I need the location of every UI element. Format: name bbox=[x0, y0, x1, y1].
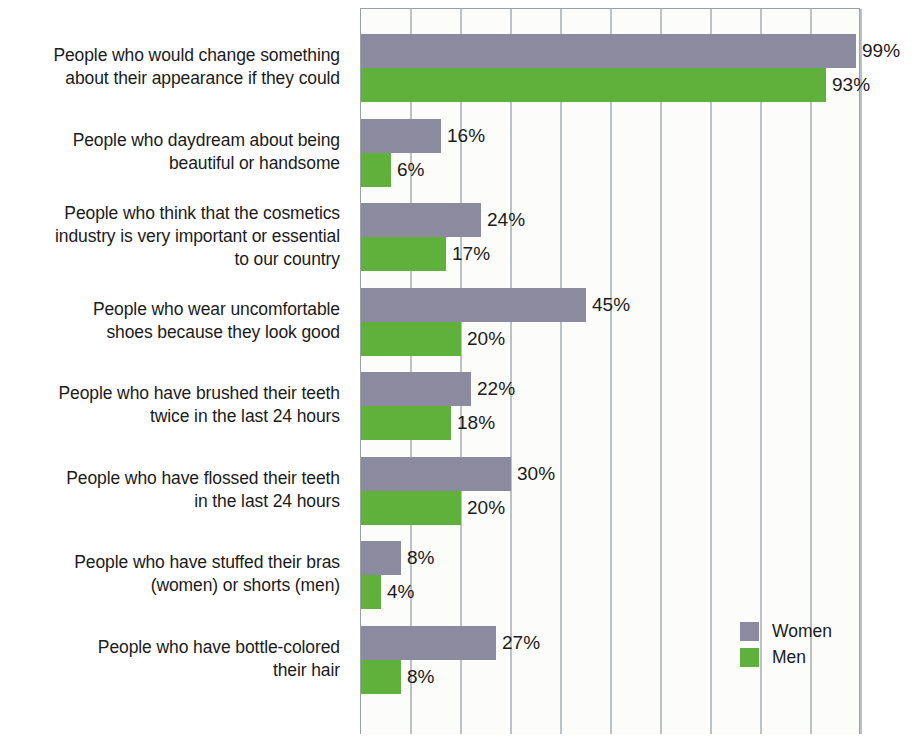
category-label: People who think that the cosmeticsindus… bbox=[10, 202, 340, 271]
bar-women bbox=[361, 203, 481, 237]
bar-women bbox=[361, 457, 511, 491]
bar-men bbox=[361, 153, 391, 187]
category-label-line: twice in the last 24 hours bbox=[10, 405, 340, 428]
bar-men bbox=[361, 68, 826, 102]
category-label-line: People who wear uncomfortable bbox=[10, 298, 340, 321]
bar-women bbox=[361, 119, 441, 153]
gridline bbox=[660, 9, 662, 734]
bar-women bbox=[361, 372, 471, 406]
category-label-line: People who have flossed their teeth bbox=[10, 467, 340, 490]
value-label: 30% bbox=[517, 464, 555, 483]
bar-men bbox=[361, 237, 446, 271]
legend-item-women: Women bbox=[740, 618, 832, 644]
value-label: 6% bbox=[397, 160, 424, 179]
value-label: 93% bbox=[832, 75, 870, 94]
category-label-line: People who have stuffed their bras bbox=[10, 551, 340, 574]
value-label: 22% bbox=[477, 379, 515, 398]
category-label: People who have brushed their teethtwice… bbox=[10, 382, 340, 428]
value-label: 4% bbox=[387, 582, 414, 601]
gridline bbox=[860, 9, 862, 734]
category-label-column: People who would change somethingabout t… bbox=[0, 0, 348, 738]
legend-swatch-women-icon bbox=[740, 622, 759, 641]
value-label: 27% bbox=[502, 633, 540, 652]
bar-men bbox=[361, 406, 451, 440]
category-label-line: (women) or shorts (men) bbox=[10, 574, 340, 597]
value-label: 8% bbox=[407, 548, 434, 567]
category-label: People who would change somethingabout t… bbox=[10, 44, 340, 90]
legend: Women Men bbox=[740, 618, 832, 670]
category-label-line: People who daydream about being bbox=[10, 129, 340, 152]
category-label-line: People who have bottle-colored bbox=[10, 636, 340, 659]
category-label: People who daydream about beingbeautiful… bbox=[10, 129, 340, 175]
category-label-line: in the last 24 hours bbox=[10, 490, 340, 513]
gridline bbox=[510, 9, 512, 734]
category-label-line: to our country bbox=[10, 248, 340, 271]
value-label: 99% bbox=[862, 41, 900, 60]
bar-men bbox=[361, 575, 381, 609]
category-label-line: beautiful or handsome bbox=[10, 152, 340, 175]
category-label-line: People who would change something bbox=[10, 44, 340, 67]
category-label: People who have bottle-coloredtheir hair bbox=[10, 636, 340, 682]
bar-women bbox=[361, 34, 856, 68]
bar-women bbox=[361, 541, 401, 575]
bar-men bbox=[361, 491, 461, 525]
legend-label-women: Women bbox=[772, 622, 832, 641]
gridline bbox=[560, 9, 562, 734]
legend-label-men: Men bbox=[772, 648, 806, 667]
legend-swatch-men-icon bbox=[740, 648, 759, 667]
bar-women bbox=[361, 626, 496, 660]
value-label: 20% bbox=[467, 498, 505, 517]
category-label-line: People who think that the cosmetics bbox=[10, 202, 340, 225]
value-label: 45% bbox=[592, 295, 630, 314]
category-label: People who have stuffed their bras(women… bbox=[10, 551, 340, 597]
gridline bbox=[610, 9, 612, 734]
category-label: People who have flossed their teethin th… bbox=[10, 467, 340, 513]
value-label: 24% bbox=[487, 210, 525, 229]
bar-men bbox=[361, 322, 461, 356]
value-label: 20% bbox=[467, 329, 505, 348]
category-label-line: industry is very important or essential bbox=[10, 225, 340, 248]
category-label: People who wear uncomfortableshoes becau… bbox=[10, 298, 340, 344]
value-label: 18% bbox=[457, 413, 495, 432]
gridline bbox=[710, 9, 712, 734]
bar-chart: People who would change somethingabout t… bbox=[0, 0, 917, 738]
value-label: 8% bbox=[407, 667, 434, 686]
value-label: 17% bbox=[452, 244, 490, 263]
category-label-line: People who have brushed their teeth bbox=[10, 382, 340, 405]
value-label: 16% bbox=[447, 126, 485, 145]
category-label-line: shoes because they look good bbox=[10, 321, 340, 344]
category-label-line: about their appearance if they could bbox=[10, 67, 340, 90]
bar-women bbox=[361, 288, 586, 322]
bar-men bbox=[361, 660, 401, 694]
legend-item-men: Men bbox=[740, 644, 832, 670]
category-label-line: their hair bbox=[10, 659, 340, 682]
